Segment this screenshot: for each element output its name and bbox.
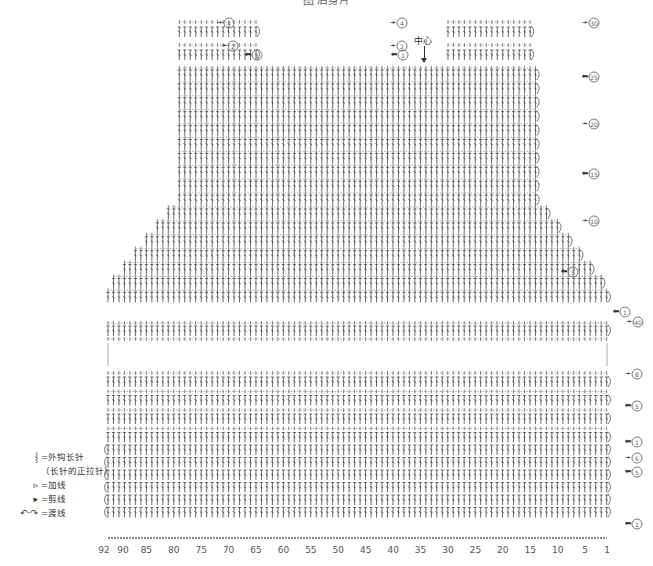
legend-label: =渡线 (41, 507, 66, 520)
x-tick-label: 40 (387, 545, 398, 555)
turning-chain (608, 482, 611, 493)
x-tick-label: 75 (195, 545, 206, 555)
x-tick-label: 80 (168, 545, 179, 555)
turning-chain (531, 26, 534, 37)
arrow-left-icon: ⬅ (625, 467, 632, 476)
row-number-label: 8 (632, 369, 643, 380)
x-tick-label: 90 (117, 545, 128, 555)
row-number-label: 1 (632, 519, 643, 530)
row-number-label: 6 (632, 453, 643, 464)
turning-chain (531, 49, 534, 60)
turning-chain (608, 494, 611, 505)
arrow-left-icon: ⬅ (625, 519, 632, 528)
turning-chain (537, 97, 540, 108)
turning-chain (570, 236, 573, 247)
arrow-right-icon: ➛ (582, 119, 589, 128)
row-number-label: 2 (228, 41, 239, 52)
arrow-right-icon: ➛ (625, 453, 632, 462)
turning-chain (608, 325, 611, 336)
arrow-left-icon: ⬅ (582, 72, 589, 81)
turning-chain (608, 376, 611, 387)
row-number-label: 1 (398, 50, 409, 61)
legend-label: =剪线 (41, 493, 66, 506)
row-number-label: 25 (589, 72, 600, 83)
turning-chain (608, 432, 611, 443)
turning-chain (608, 507, 611, 518)
arrow-right-icon: ➛ (221, 41, 228, 50)
arrow-left-icon: ⬅ (582, 169, 589, 178)
carry-yarn-icon: ↶·↷ (8, 507, 38, 520)
row-number-label: 5 (568, 267, 579, 278)
turning-chain (537, 180, 540, 191)
turning-chain (608, 457, 611, 468)
turning-chain (257, 26, 260, 37)
turning-chain (559, 222, 562, 233)
arrow-left-icon: ⬅ (625, 437, 632, 446)
turning-chain (608, 413, 611, 424)
turning-chain (608, 469, 611, 480)
row-number-label: 1 (620, 307, 631, 318)
join-yarn-icon: ▹ (8, 479, 38, 492)
arrow-right-icon: ➛ (625, 369, 632, 378)
row-number-label: 20 (589, 119, 600, 130)
cut-yarn-icon: ▸ (8, 493, 38, 506)
row-number-label: 15 (589, 169, 600, 180)
arrow-right-icon: ➛ (390, 18, 397, 27)
turning-chain (592, 264, 595, 275)
x-tick-label: 10 (552, 545, 563, 555)
legend-item-carry-yarn: ↶·↷ =渡线 (8, 506, 113, 520)
x-tick-label: 85 (141, 545, 152, 555)
turning-chain (537, 166, 540, 177)
center-label: 中心 (414, 34, 432, 47)
row-number-label: 30 (589, 18, 600, 29)
x-tick-label: 55 (305, 545, 316, 555)
x-tick-label: 25 (470, 545, 481, 555)
row-number-label: 4 (224, 18, 235, 29)
legend-sub: （长针的正拉针） (8, 464, 113, 478)
arrow-left-icon: ⬅ (245, 50, 252, 59)
row-number-label: 5 (632, 467, 643, 478)
arrow-right-icon: ➛ (626, 317, 633, 326)
legend-label: =加线 (41, 479, 66, 492)
turning-chain (537, 69, 540, 80)
x-tick-label: 20 (497, 545, 508, 555)
row-number-label: 5 (632, 401, 643, 412)
legend-item-front-post: ⸾ =外钩长针 (8, 450, 113, 464)
arrow-right-icon: ➛ (217, 18, 224, 27)
turning-chain (537, 83, 540, 94)
turning-chain (608, 291, 611, 302)
turning-chain (537, 111, 540, 122)
arrow-left-icon: ⬅ (625, 401, 632, 410)
row-number-label: 1 (252, 50, 263, 61)
row-number-label: 1 (632, 437, 643, 448)
x-tick-label: 30 (442, 545, 453, 555)
turning-chain (537, 139, 540, 150)
x-tick-label: 70 (223, 545, 234, 555)
x-tick-label: 1 (604, 545, 610, 555)
turning-chain (603, 278, 606, 289)
arrow-left-icon: ⬅ (561, 267, 568, 276)
legend-item-join-yarn: ▹ =加线 (8, 478, 113, 492)
turning-chain (608, 395, 611, 406)
x-tick-label: 35 (415, 545, 426, 555)
row-number-label: 10 (589, 216, 600, 227)
turning-chain (537, 125, 540, 136)
x-tick-label: 65 (250, 545, 261, 555)
arrow-right-icon: ➛ (390, 41, 397, 50)
turning-chain (548, 208, 551, 219)
front-post-double-crochet-icon: ⸾ (8, 451, 38, 464)
arrow-left-icon: ⬅ (613, 307, 620, 316)
x-tick-label: 5 (582, 545, 588, 555)
row-number-label: 40 (633, 317, 644, 328)
turning-chain (581, 250, 584, 261)
x-tick-label: 15 (524, 545, 535, 555)
arrow-right-icon: ➛ (582, 216, 589, 225)
turning-chain (537, 194, 540, 205)
arrow-right-icon: ➛ (582, 18, 589, 27)
x-tick-label: 60 (278, 545, 289, 555)
x-tick-label: 50 (333, 545, 344, 555)
legend: ⸾ =外钩长针 （长针的正拉针） ▹ =加线 ▸ =剪线 ↶·↷ =渡线 (8, 450, 113, 520)
x-tick-label: 92 (98, 545, 109, 555)
x-tick-label: 45 (360, 545, 371, 555)
turning-chain (537, 152, 540, 163)
